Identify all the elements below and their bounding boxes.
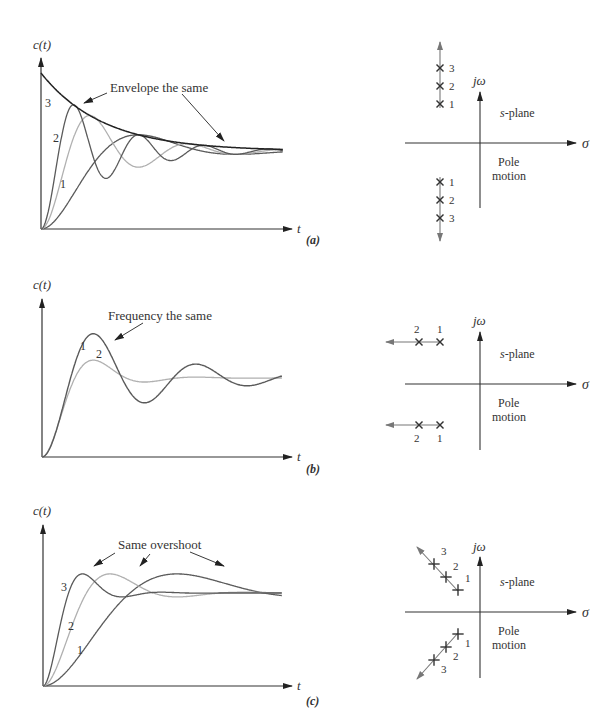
curve-label-2: 2	[53, 131, 59, 145]
curve-label-1: 1	[80, 339, 86, 353]
pole-label: 3	[441, 545, 447, 557]
panel-a-s-plane: jω σ s-plane Pole motion 3 2 1 1 2 3	[405, 42, 590, 241]
s-plane-label: s-plane	[500, 575, 535, 589]
pole-motion-label: motion	[492, 410, 526, 424]
response-curves	[42, 334, 282, 457]
pole-label: 1	[449, 98, 455, 110]
response-curve-1	[42, 334, 282, 457]
response-curves	[43, 574, 282, 686]
panel-c-time-response: c(t) t Same overshoot 3 2 1 (c)	[33, 503, 319, 708]
s-plane-label: s-plane	[500, 106, 535, 120]
response-curve-2	[42, 360, 282, 457]
response-curve-2	[43, 574, 282, 686]
annotation-arrow	[140, 554, 150, 566]
curve-label-3: 3	[45, 96, 51, 110]
pole-motion-arrow	[417, 633, 458, 679]
response-curves	[41, 73, 283, 229]
x-axis-label: t	[297, 449, 301, 464]
pole-label: 1	[465, 637, 471, 649]
annotation-arrow	[94, 553, 115, 566]
response-curve-1	[43, 574, 282, 686]
panel-a-time-response: c(t) t Envelope the same 3 2 1 (a)	[33, 37, 320, 247]
pole-label: 2	[453, 650, 459, 662]
subfigure-caption: (a)	[306, 233, 320, 247]
panel-b-s-plane: jω σ s-plane Pole motion 2 1 2 1	[386, 313, 590, 450]
subfigure-caption: (c)	[306, 694, 319, 708]
pole-label: 2	[414, 323, 420, 335]
pole-label: 2	[414, 432, 420, 444]
figure-canvas: c(t) t Envelope the same 3 2 1 (a) jω σ …	[0, 0, 615, 710]
subfigure-caption: (b)	[306, 462, 320, 476]
sigma-axis-label: σ	[582, 377, 590, 392]
curve-label-2: 2	[68, 619, 74, 633]
pole-motion-label: motion	[492, 638, 526, 652]
pole-label: 2	[449, 80, 455, 92]
y-axis-label: c(t)	[33, 277, 51, 292]
panel-b-time-response: c(t) t Frequency the same 1 2 (b)	[33, 277, 320, 476]
x-axis-label: t	[297, 221, 301, 236]
pole-motion-arrow	[417, 547, 458, 591]
response-curve-3	[43, 574, 282, 686]
annotation-arrow	[182, 94, 224, 141]
pole-label: 2	[449, 194, 455, 206]
response-curve-2	[41, 115, 283, 229]
annotation-arrow	[190, 552, 224, 566]
pole-label: 3	[449, 62, 455, 74]
s-plane-label: s-plane	[500, 347, 535, 361]
sigma-axis-label: σ	[582, 136, 590, 151]
annotation-arrow	[84, 93, 107, 103]
jw-axis-label: jω	[471, 313, 486, 328]
sigma-axis-label: σ	[582, 605, 590, 620]
curve-label-3: 3	[61, 580, 67, 594]
y-axis-label: c(t)	[33, 503, 51, 518]
response-curve-3	[41, 105, 283, 229]
pole-motion-label: Pole	[498, 624, 519, 638]
curve-label-1: 1	[60, 177, 66, 191]
panel-c-s-plane: jω σ s-plane Pole motion 3 2 1 1 2 3	[405, 539, 590, 679]
pole-label: 2	[453, 560, 459, 572]
pole-x-marker	[428, 558, 439, 569]
pole-label: 1	[437, 432, 443, 444]
pole-motion-label: Pole	[498, 396, 519, 410]
pole-motion-label: Pole	[498, 155, 519, 169]
pole-label: 1	[465, 572, 471, 584]
x-axis-label: t	[297, 678, 301, 693]
pole-x-marker	[440, 571, 451, 582]
pole-label: 3	[449, 212, 455, 224]
annotation-text: Envelope the same	[110, 80, 208, 95]
pole-label: 3	[441, 663, 447, 675]
curve-label-2: 2	[96, 347, 102, 361]
jw-axis-label: jω	[471, 73, 486, 88]
annotation-text: Same overshoot	[118, 537, 202, 552]
annotation-arrow	[115, 323, 143, 340]
curve-label-1: 1	[77, 643, 83, 657]
y-axis-label: c(t)	[33, 37, 51, 52]
jw-axis-label: jω	[471, 539, 486, 554]
annotation-text: Frequency the same	[108, 308, 212, 323]
pole-label: 1	[437, 323, 443, 335]
pole-motion-label: motion	[492, 169, 526, 183]
pole-label: 1	[449, 176, 455, 188]
